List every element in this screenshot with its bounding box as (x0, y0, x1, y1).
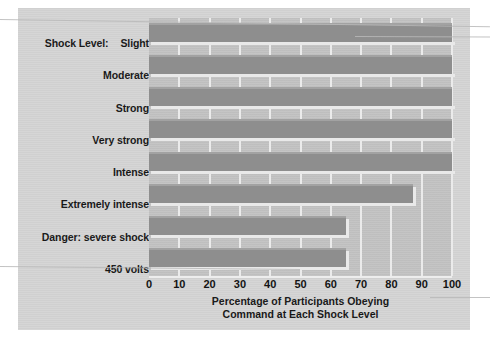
category-label-text: Slight (120, 37, 149, 49)
bar-highlight (149, 23, 452, 25)
bar (149, 119, 452, 138)
x-axis-title-line1: Percentage of Participants Obeying (149, 295, 452, 308)
x-tick-label: 40 (264, 278, 276, 290)
bar-end-cap (346, 219, 349, 238)
bar-row (149, 152, 452, 171)
bar-shadow (151, 203, 416, 206)
bar-row (149, 216, 452, 235)
category-label: Intense (18, 166, 149, 178)
bar-shadow (151, 171, 455, 174)
category-label-text: Intense (113, 166, 149, 178)
bar-chart: Shock Level:SlightModerateStrongVery str… (18, 8, 470, 330)
bar-series (149, 18, 452, 276)
bar-highlight (149, 152, 452, 154)
bar-highlight (149, 87, 452, 89)
x-axis-title: Percentage of Participants Obeying Comma… (149, 295, 452, 321)
bar-shadow (151, 106, 455, 109)
category-label-text: 450 volts (105, 263, 149, 275)
x-tick-label: 70 (355, 278, 367, 290)
bar-highlight (149, 248, 346, 250)
category-label-text: Strong (116, 102, 149, 114)
x-tick-label: 80 (385, 278, 397, 290)
bar-row (149, 184, 452, 203)
bar (149, 55, 452, 74)
bar (149, 216, 346, 235)
category-label-text: Danger: severe shock (42, 231, 149, 243)
figure-panel: Shock Level:SlightModerateStrongVery str… (18, 8, 470, 330)
category-label: Very strong (18, 134, 149, 146)
bar-shadow (151, 235, 349, 238)
bar (149, 248, 346, 267)
x-tick-label: 90 (416, 278, 428, 290)
x-axis-title-line2: Command at Each Shock Level (149, 308, 452, 321)
bar-row (149, 23, 452, 42)
x-tick-label: 20 (203, 278, 215, 290)
category-label-text: Extremely intense (61, 198, 149, 210)
category-label: Shock Level:Slight (18, 37, 149, 49)
bar-highlight (149, 184, 413, 186)
x-tick-label: 50 (294, 278, 306, 290)
bar-shadow (151, 74, 455, 77)
bar-shadow (151, 267, 349, 270)
bar (149, 23, 452, 42)
x-tick-label: 100 (443, 278, 461, 290)
bar (149, 152, 452, 171)
category-label: Moderate (18, 69, 149, 81)
x-tick-label: 10 (173, 278, 185, 290)
x-axis-ticks: 0102030405060708090100 (149, 278, 452, 294)
bar-end-cap (346, 251, 349, 270)
category-label: 450 volts (18, 263, 149, 275)
category-label-column: Shock Level:SlightModerateStrongVery str… (18, 28, 149, 268)
category-label-text: Moderate (103, 69, 149, 81)
bar-row (149, 87, 452, 106)
bar-highlight (149, 55, 452, 57)
x-tick-label: 30 (234, 278, 246, 290)
bar (149, 184, 413, 203)
bar-highlight (149, 216, 346, 218)
category-label-text: Very strong (92, 134, 149, 146)
bar-row (149, 119, 452, 138)
x-tick-label: 0 (146, 278, 152, 290)
axis-label-prefix: Shock Level: (45, 37, 109, 49)
bar-shadow (151, 42, 455, 45)
category-label: Strong (18, 102, 149, 114)
x-tick-label: 60 (325, 278, 337, 290)
bar-shadow (151, 138, 455, 141)
bar-end-cap (413, 187, 416, 206)
category-label: Danger: severe shock (18, 231, 149, 243)
plot-area (149, 18, 452, 276)
bar (149, 87, 452, 106)
bar-row (149, 248, 452, 267)
category-label: Extremely intense (18, 198, 149, 210)
bar-highlight (149, 119, 452, 121)
bar-row (149, 55, 452, 74)
